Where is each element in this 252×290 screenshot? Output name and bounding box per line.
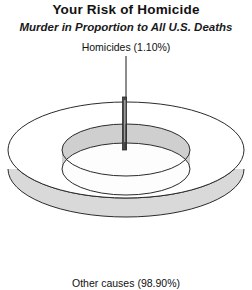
homicide-slice — [123, 97, 127, 150]
other-causes-label: Other causes (98.90%) — [0, 277, 252, 290]
